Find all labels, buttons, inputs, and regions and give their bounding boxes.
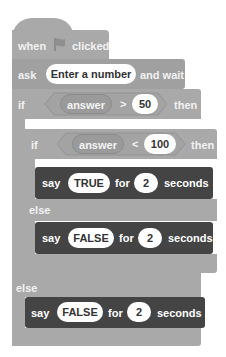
outer-value-input[interactable]: 50 xyxy=(132,94,158,114)
inner-then-label: then xyxy=(191,138,214,152)
seconds-input[interactable]: 2 xyxy=(127,302,151,322)
outer-else-label: else xyxy=(16,281,37,295)
hat-cap xyxy=(12,18,74,38)
inner-if-else-block[interactable]: if answer < 100 then xyxy=(25,129,217,159)
ask-and-wait-block[interactable]: ask Enter a number and wait xyxy=(12,59,185,89)
inner-if-bottom xyxy=(25,254,217,273)
ask-prompt-input[interactable]: Enter a number xyxy=(46,64,136,84)
say-false-outer-block[interactable]: say FALSE for 2 seconds xyxy=(25,297,205,328)
seconds-label: seconds xyxy=(157,306,202,320)
outer-if-bottom xyxy=(12,328,201,346)
outer-else-bar: else xyxy=(12,273,201,297)
answer-reporter[interactable]: answer xyxy=(72,134,124,154)
less-than-operator: < xyxy=(132,137,138,151)
say-label: say xyxy=(42,176,60,190)
green-flag-icon xyxy=(52,36,68,56)
outer-if-label: if xyxy=(18,98,25,112)
inner-value-input[interactable]: 100 xyxy=(144,134,176,154)
say-true-block[interactable]: say TRUE for 2 seconds xyxy=(35,167,213,199)
outer-if-else-block[interactable]: if answer > 50 then xyxy=(12,89,201,119)
ask-label: ask xyxy=(18,68,36,82)
answer-reporter[interactable]: answer xyxy=(60,94,112,114)
and-wait-label: and wait xyxy=(140,68,184,82)
inner-else-label: else xyxy=(29,203,50,217)
say-label: say xyxy=(42,231,60,245)
clicked-label: clicked xyxy=(72,39,109,53)
when-flag-clicked-block[interactable]: when clicked xyxy=(12,30,109,59)
seconds-label: seconds xyxy=(168,231,213,245)
outer-if-arm xyxy=(12,118,25,346)
when-label: when xyxy=(18,39,46,53)
for-label: for xyxy=(115,176,130,190)
say-false-inner-block[interactable]: say FALSE for 2 seconds xyxy=(35,222,213,254)
for-label: for xyxy=(119,231,134,245)
for-label: for xyxy=(108,306,123,320)
say-message-input[interactable]: TRUE xyxy=(68,173,110,193)
seconds-input[interactable]: 2 xyxy=(138,228,162,248)
outer-then-label: then xyxy=(174,98,197,112)
say-label: say xyxy=(31,306,49,320)
inner-if-label: if xyxy=(31,138,38,152)
greater-than-operator: > xyxy=(120,97,126,111)
say-message-input[interactable]: FALSE xyxy=(68,228,114,248)
outer-condition-greater-than[interactable]: answer > 50 xyxy=(44,92,168,116)
seconds-input[interactable]: 2 xyxy=(134,173,158,193)
seconds-label: seconds xyxy=(164,176,209,190)
say-message-input[interactable]: FALSE xyxy=(57,302,103,322)
inner-condition-less-than[interactable]: answer < 100 xyxy=(56,132,186,156)
inner-else-bar: else xyxy=(25,199,217,221)
